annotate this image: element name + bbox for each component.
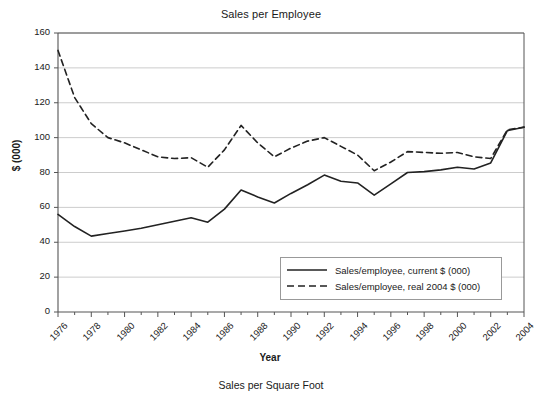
y-tick-label: 40 [16,235,50,246]
legend-item-real: Sales/employee, real 2004 $ (000) [285,278,497,294]
data-series-group [58,50,524,236]
gridlines [58,33,524,277]
legend-item-current: Sales/employee, current $ (000) [285,262,497,278]
legend-line-dashed-icon [285,280,329,292]
chart-figure: Sales per Employee 160140120100806040200… [0,0,542,401]
x-tick-marks [58,312,524,317]
y-tick-label: 160 [16,26,50,37]
x-axis-title: Year [40,352,500,363]
legend-label-current: Sales/employee, current $ (000) [335,265,470,276]
y-tick-label: 20 [16,270,50,281]
y-tick-marks [54,33,58,312]
legend-line-solid-icon [285,264,329,276]
y-tick-label: 0 [16,305,50,316]
y-tick-label: 140 [16,61,50,72]
y-axis-title: $ (000) [11,116,22,196]
y-tick-label: 60 [16,200,50,211]
plot-area: 160140120100806040200 197619781980198219… [0,0,542,401]
figure-caption: Sales per Square Foot [0,379,542,391]
legend-label-real: Sales/employee, real 2004 $ (000) [335,281,480,292]
series-line-real [58,50,524,170]
y-tick-label: 120 [16,96,50,107]
chart-legend: Sales/employee, current $ (000) Sales/em… [280,257,502,300]
